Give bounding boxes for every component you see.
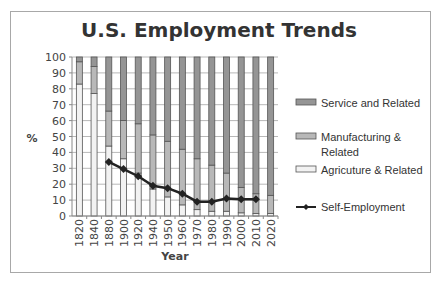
bar-segment	[121, 121, 127, 159]
bar-segment	[76, 62, 82, 84]
x-tick-label: 1960	[176, 219, 189, 247]
legend-item: Agricuture & Related	[296, 164, 423, 176]
y-tick-label: 30	[52, 162, 66, 175]
x-axis-label: Year	[160, 250, 189, 263]
x-tick-label: 1820	[73, 219, 86, 247]
y-tick-label: 20	[52, 178, 66, 191]
bar-segment	[238, 57, 244, 187]
bar-segment	[106, 146, 112, 216]
legend-swatch	[296, 99, 316, 105]
y-tick-label: 80	[52, 83, 66, 96]
bar-segment	[224, 173, 230, 211]
bar-segment	[106, 57, 112, 111]
legend-swatch	[296, 166, 316, 172]
bar-segment	[268, 57, 274, 195]
bar-segment	[91, 57, 97, 67]
legend: Service and RelatedManufacturing &Relate…	[296, 97, 423, 213]
legend-item: Self-Employment	[296, 201, 405, 213]
legend-item: Manufacturing &Related	[296, 131, 402, 158]
bar-segment	[268, 195, 274, 213]
x-tick-label: 2010	[250, 219, 263, 247]
legend-label: Manufacturing &	[321, 131, 402, 143]
bar-segment	[209, 211, 215, 216]
bar-segment	[150, 57, 156, 135]
bar-segment	[121, 57, 127, 121]
x-tick-label: 1990	[221, 219, 234, 247]
legend-label: Service and Related	[321, 97, 420, 109]
y-tick-label: 90	[52, 67, 66, 80]
bar-segment	[194, 57, 200, 159]
bar-segment	[150, 189, 156, 216]
bar-segment	[209, 57, 215, 165]
legend-label: Agricuture & Related	[321, 164, 423, 176]
y-axis-label: %	[26, 132, 37, 145]
y-tick-label: 100	[45, 51, 66, 64]
y-tick-label: 0	[59, 210, 66, 223]
bar-segment	[165, 197, 171, 216]
x-tick-label: 2020	[265, 219, 278, 247]
x-tick-label: 1940	[147, 219, 160, 247]
bar-segment	[224, 57, 230, 173]
y-tick-label: 60	[52, 115, 66, 128]
x-tick-label: 1840	[88, 219, 101, 247]
legend-label: Self-Employment	[321, 201, 405, 213]
bar-segment	[165, 57, 171, 141]
bar-segment	[194, 210, 200, 216]
x-tick-label: 1900	[118, 219, 131, 247]
y-tick-label: 40	[52, 146, 66, 159]
x-tick-label: 1920	[132, 219, 145, 247]
x-tick-label: 2000	[235, 219, 248, 247]
bar-segment	[135, 124, 141, 173]
chart-plot: 0102030405060708090100182018401880190019…	[0, 0, 438, 284]
x-tick-label: 1880	[103, 219, 116, 247]
bar-segment	[179, 205, 185, 216]
bar-segment	[91, 67, 97, 94]
legend-label-line2: Related	[321, 146, 359, 158]
y-tick-label: 10	[52, 194, 66, 207]
bar-segment	[150, 135, 156, 189]
legend-marker-icon	[303, 204, 309, 210]
bar-segment	[76, 57, 82, 62]
legend-item: Service and Related	[296, 97, 420, 109]
bar-segment	[253, 57, 259, 194]
bar-segment	[76, 84, 82, 216]
y-tick-label: 70	[52, 99, 66, 112]
bar-segment	[179, 57, 185, 149]
legend-swatch	[296, 133, 316, 139]
bar-segment	[224, 211, 230, 216]
bar-segment	[135, 57, 141, 124]
bar-segment	[91, 94, 97, 216]
x-tick-label: 1950	[162, 219, 175, 247]
x-tick-label: 1980	[206, 219, 219, 247]
bar-segment	[106, 111, 112, 146]
x-tick-label: 1970	[191, 219, 204, 247]
y-tick-label: 50	[52, 131, 66, 144]
